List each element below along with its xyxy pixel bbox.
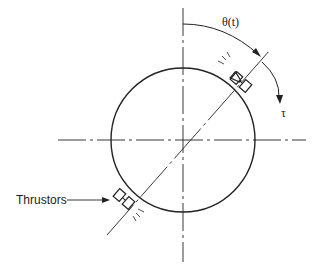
exhaust-lines-lower <box>133 209 144 221</box>
exhaust-lines-upper <box>218 52 230 64</box>
thrustors-label: Thrustors <box>16 193 67 207</box>
rotated-axis <box>107 50 270 235</box>
theta-arc <box>183 24 259 55</box>
theta-label: θ(t) <box>222 15 239 29</box>
torque-label: τ <box>281 106 286 120</box>
thrustor-lower-left <box>113 189 135 210</box>
torque-arc <box>262 62 279 98</box>
satellite-thrustor-diagram: θ(t) τ Thrustors <box>0 0 316 280</box>
thrustors-arrowhead <box>102 197 110 203</box>
theta-arrowhead <box>252 48 261 57</box>
torque-arrowhead <box>276 95 283 104</box>
